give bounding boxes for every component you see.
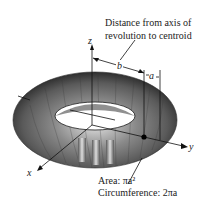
dimension-b-label: b (116, 60, 123, 71)
callout-top-line2: revolution to centroid (105, 30, 192, 41)
y-axis-label: y (189, 141, 193, 152)
circumference-label: Circumference: 2πa (98, 187, 177, 198)
callout-top-line1: Distance from axis of (105, 17, 191, 28)
dimension-a-label: a (149, 70, 154, 81)
torus (13, 72, 177, 168)
z-axis-label: z (88, 35, 92, 46)
centroid-dot (141, 134, 146, 139)
area-label: Area: πa² (98, 175, 135, 186)
x-axis-label: x (27, 167, 31, 178)
